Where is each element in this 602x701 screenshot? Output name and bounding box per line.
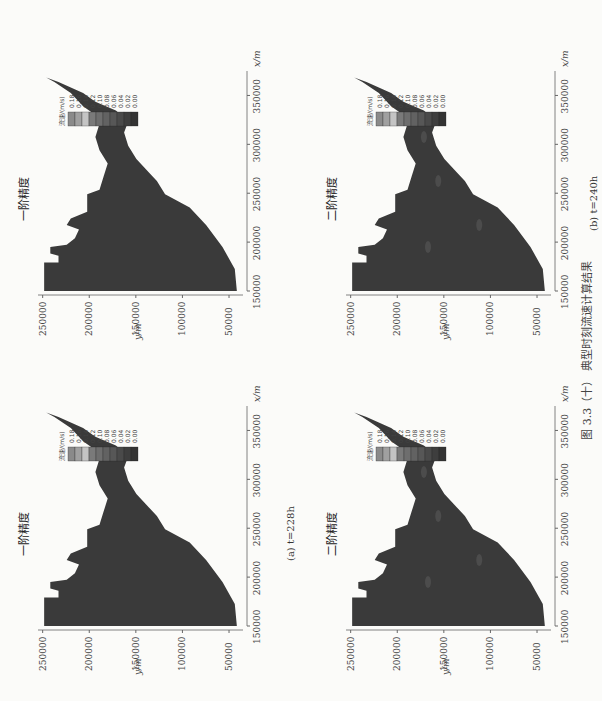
x-tick-label: 350000 — [560, 414, 570, 449]
legend-title: 流速/(m/s) — [58, 431, 66, 461]
y-tick-label: 250000 — [346, 301, 356, 336]
velocity-field — [44, 78, 237, 291]
legend-title: 流速/(m/s) — [366, 96, 374, 126]
panel-b-first-order: 一阶精度150000200000250000300000350000500001… — [10, 16, 275, 346]
legend-title: 流速/(m/s) — [58, 96, 66, 126]
y-tick-label: 100000 — [177, 301, 187, 336]
legend-label: 0.14 — [82, 94, 89, 108]
y-tick-label: 50000 — [532, 307, 542, 336]
x-tick-label: 250000 — [252, 512, 262, 547]
legend-label: 0.14 — [390, 429, 397, 443]
velocity-field — [352, 78, 545, 291]
legend-swatch — [68, 447, 75, 461]
figure-page: 一阶精度150000200000250000300000350000500001… — [0, 0, 602, 701]
legend-swatch — [432, 447, 439, 461]
velocity-patch — [421, 131, 427, 143]
legend-swatch — [376, 447, 383, 461]
legend-label: 0.12 — [397, 429, 404, 443]
legend-label: 0.18 — [376, 94, 383, 108]
legend-label: 0.16 — [383, 94, 390, 108]
legend-swatch — [131, 447, 138, 461]
panel-title: 一阶精度 — [17, 512, 31, 556]
x-tick-label: 300000 — [252, 463, 262, 498]
legend-swatch — [432, 112, 439, 126]
velocity-patch — [425, 241, 431, 253]
x-tick-label: 350000 — [252, 414, 262, 449]
velocity-patch — [421, 466, 427, 478]
legend-swatch — [117, 447, 124, 461]
legend-swatch — [418, 112, 425, 126]
legend-swatch — [390, 447, 397, 461]
velocity-patch — [435, 175, 441, 187]
legend-swatch — [439, 447, 446, 461]
legend-label: 0.18 — [376, 429, 383, 443]
legend-label: 0.02 — [432, 429, 439, 443]
legend-label: 0.08 — [411, 94, 418, 108]
x-tick-label: 150000 — [560, 274, 570, 309]
legend-swatch — [117, 112, 124, 126]
legend-label: 0.00 — [131, 429, 138, 443]
legend-label: 0.04 — [117, 94, 124, 108]
legend-label: 0.14 — [390, 94, 397, 108]
x-tick-label: 150000 — [252, 274, 262, 309]
y-axis-label: y/m — [441, 658, 451, 676]
x-tick-label: 300000 — [560, 463, 570, 498]
y-tick-label: 100000 — [177, 636, 187, 671]
x-tick-label: 300000 — [252, 128, 262, 163]
y-tick-label: 250000 — [38, 301, 48, 336]
legend-label: 0.10 — [404, 429, 411, 443]
panel-a-second-order: 二阶精度150000200000250000300000350000500001… — [318, 351, 583, 681]
legend-label: 0.18 — [68, 429, 75, 443]
x-tick-label: 300000 — [560, 128, 570, 163]
x-tick-label: 250000 — [560, 512, 570, 547]
panel-title: 一阶精度 — [17, 177, 31, 221]
x-tick-label: 150000 — [560, 609, 570, 644]
velocity-patch — [476, 219, 482, 231]
x-axis-label: x/m — [252, 50, 262, 67]
legend-label: 0.16 — [383, 429, 390, 443]
legend-swatch — [439, 112, 446, 126]
legend-swatch — [103, 112, 110, 126]
legend-swatch — [89, 447, 96, 461]
velocity-field — [352, 413, 545, 626]
chart-svg: 二阶精度150000200000250000300000350000500001… — [318, 351, 583, 681]
x-tick-label: 350000 — [252, 79, 262, 114]
y-tick-label: 250000 — [346, 636, 356, 671]
panel-title: 二阶精度 — [325, 512, 339, 556]
legend-swatch — [397, 447, 404, 461]
legend-label: 0.12 — [397, 94, 404, 108]
x-axis-label: x/m — [560, 385, 570, 402]
legend-swatch — [89, 112, 96, 126]
legend-label: 0.16 — [75, 94, 82, 108]
legend-swatch — [96, 112, 103, 126]
x-tick-label: 250000 — [560, 177, 570, 212]
y-tick-label: 250000 — [38, 636, 48, 671]
x-tick-label: 200000 — [252, 560, 262, 595]
legend-swatch — [383, 112, 390, 126]
legend-swatch — [75, 447, 82, 461]
legend-label: 0.04 — [425, 94, 432, 108]
legend-label: 0.06 — [418, 429, 425, 443]
legend-label: 0.04 — [425, 429, 432, 443]
legend-label: 0.08 — [103, 429, 110, 443]
y-tick-label: 100000 — [485, 301, 495, 336]
legend-label: 0.06 — [418, 94, 425, 108]
legend-label: 0.00 — [439, 429, 446, 443]
legend-label: 0.10 — [96, 94, 103, 108]
y-tick-label: 50000 — [224, 642, 234, 671]
legend-swatch — [418, 447, 425, 461]
panel-b-second-order: 二阶精度150000200000250000300000350000500001… — [318, 16, 583, 346]
legend-label: 0.00 — [439, 94, 446, 108]
y-axis-label: y/m — [441, 323, 451, 341]
legend-swatch — [96, 447, 103, 461]
y-tick-label: 200000 — [84, 636, 94, 671]
legend-label: 0.08 — [103, 94, 110, 108]
legend-swatch — [425, 447, 432, 461]
legend-label: 0.04 — [117, 429, 124, 443]
legend-swatch — [397, 112, 404, 126]
x-tick-label: 200000 — [560, 560, 570, 595]
panel-a-first-order: 一阶精度150000200000250000300000350000500001… — [10, 351, 275, 681]
legend-swatch — [376, 112, 383, 126]
legend-swatch — [124, 112, 131, 126]
legend-swatch — [110, 447, 117, 461]
